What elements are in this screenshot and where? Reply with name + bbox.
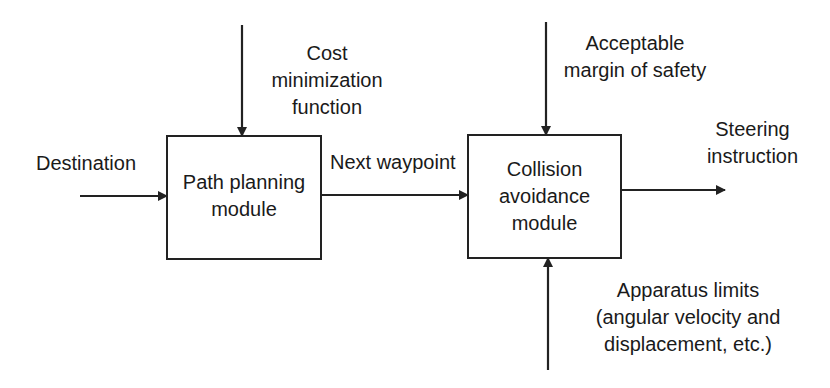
path-planning-block: Path planning module (166, 135, 322, 260)
collision-line-2: avoidance (499, 183, 590, 210)
apparatus-label: Apparatus limits (angular velocity and d… (578, 277, 798, 358)
steering-label: Steering instruction (695, 116, 810, 170)
margin-label: Acceptable margin of safety (560, 30, 710, 84)
cost-label: Cost minimization function (262, 40, 392, 121)
collision-line-3: module (512, 210, 578, 237)
next-waypoint-label: Next waypoint (330, 149, 456, 176)
path-planning-line-2: module (211, 196, 277, 223)
path-planning-line-1: Path planning (183, 169, 305, 196)
collision-avoidance-block: Collision avoidance module (467, 134, 622, 259)
destination-label: Destination (36, 150, 136, 177)
collision-line-1: Collision (507, 156, 583, 183)
